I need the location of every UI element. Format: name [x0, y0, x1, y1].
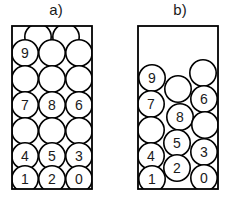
- disk-a-blank-4: [66, 40, 92, 66]
- disk-label-a-9: 9: [21, 45, 29, 61]
- packing-figure: a) b) 9786453120 9768543210: [0, 0, 227, 206]
- figure-canvas: 9786453120 9768543210: [0, 0, 227, 206]
- disk-label-a-4: 4: [21, 148, 29, 164]
- disk-label-b-3: 3: [200, 144, 208, 160]
- disk-label-a-2: 2: [48, 171, 56, 187]
- disk-a-blank-12: [39, 118, 65, 144]
- panel-b-group: 9768543210: [138, 26, 218, 192]
- disk-label-b-0: 0: [200, 170, 208, 186]
- disk-label-b-4: 4: [147, 148, 155, 164]
- disk-a-blank-6: [39, 66, 65, 92]
- disk-b-blank-2: [165, 76, 191, 102]
- disk-label-a-8: 8: [48, 97, 56, 113]
- panel-b-disks: 9768543210: [138, 60, 218, 192]
- disk-label-b-2: 2: [173, 160, 181, 176]
- disk-label-a-0: 0: [75, 171, 83, 187]
- disk-a-blank-5: [12, 66, 38, 92]
- disk-label-a-1: 1: [21, 171, 29, 187]
- disk-b-blank-7: [192, 112, 218, 138]
- disk-label-a-7: 7: [21, 97, 29, 113]
- disk-label-b-8: 8: [176, 109, 184, 125]
- disk-b-blank-6: [138, 117, 164, 143]
- disk-label-a-5: 5: [48, 148, 56, 164]
- disk-label-b-1: 1: [148, 171, 156, 187]
- disk-label-a-3: 3: [75, 148, 83, 164]
- disk-label-b-7: 7: [147, 96, 155, 112]
- panel-a-label: a): [26, 1, 86, 18]
- disk-a-blank-3: [39, 40, 65, 66]
- disk-label-a-6: 6: [75, 97, 83, 113]
- disk-a-blank-13: [66, 118, 92, 144]
- disk-a-blank-7: [66, 66, 92, 92]
- disk-b-blank-1: [190, 60, 216, 86]
- disk-a-blank-11: [12, 118, 38, 144]
- panel-a-disks: 9786453120: [12, 24, 92, 192]
- panel-b-label: b): [150, 1, 210, 18]
- disk-label-b-6: 6: [200, 91, 208, 107]
- disk-label-b-9: 9: [148, 70, 156, 86]
- panel-a-group: 9786453120: [12, 24, 92, 192]
- disk-label-b-5: 5: [173, 135, 181, 151]
